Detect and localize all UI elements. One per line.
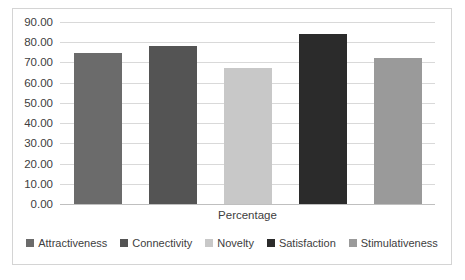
bar-stimulativeness[interactable] — [374, 58, 422, 204]
legend-swatch-icon — [120, 239, 128, 247]
chart-legend: AttractivenessConnectivityNoveltySatisfa… — [13, 237, 451, 249]
y-axis-tick-label: 20.00 — [24, 158, 53, 170]
bar-novelty[interactable] — [224, 68, 272, 205]
legend-item-attractiveness[interactable]: Attractiveness — [26, 237, 107, 249]
y-axis-tick-label: 60.00 — [24, 77, 53, 89]
plot-area: 0.0010.0020.0030.0040.0050.0060.0070.008… — [60, 22, 435, 204]
legend-item-label: Novelty — [217, 237, 254, 249]
y-axis-tick-label: 0.00 — [31, 198, 53, 210]
legend-item-label: Stimulativeness — [361, 237, 438, 249]
legend-swatch-icon — [349, 239, 357, 247]
y-axis-tick-label: 10.00 — [24, 178, 53, 190]
bar-series-group — [60, 22, 435, 204]
y-axis-tick-label: 80.00 — [24, 36, 53, 48]
legend-item-novelty[interactable]: Novelty — [205, 237, 254, 249]
legend-item-stimulativeness[interactable]: Stimulativeness — [349, 237, 438, 249]
y-axis-tick-label: 50.00 — [24, 97, 53, 109]
x-axis-title: Percentage — [60, 209, 435, 221]
legend-swatch-icon — [205, 239, 213, 247]
y-axis-tick-label: 70.00 — [24, 56, 53, 68]
y-axis-tick-label: 30.00 — [24, 137, 53, 149]
legend-swatch-icon — [267, 239, 275, 247]
legend-item-label: Connectivity — [132, 237, 192, 249]
legend-item-label: Attractiveness — [38, 237, 107, 249]
y-axis-tick-label: 40.00 — [24, 117, 53, 129]
legend-item-label: Satisfaction — [279, 237, 336, 249]
bar-attractiveness[interactable] — [74, 53, 122, 204]
chart-container: 0.0010.0020.0030.0040.0050.0060.0070.008… — [12, 8, 452, 265]
y-axis-tick-label: 90.00 — [24, 16, 53, 28]
legend-item-connectivity[interactable]: Connectivity — [120, 237, 192, 249]
bar-satisfaction[interactable] — [299, 34, 347, 204]
legend-swatch-icon — [26, 239, 34, 247]
bar-connectivity[interactable] — [149, 46, 197, 204]
legend-item-satisfaction[interactable]: Satisfaction — [267, 237, 336, 249]
x-axis-line: 0.00 — [60, 204, 435, 205]
